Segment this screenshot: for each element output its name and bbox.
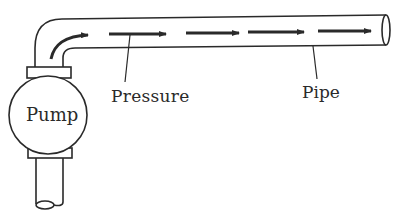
- intake-pipe: [36, 158, 63, 206]
- pump: [9, 67, 87, 209]
- pipe-bottom-wall: [63, 45, 386, 67]
- pipe: [35, 15, 390, 67]
- pipe-end: [382, 15, 390, 45]
- pipe-top-wall: [35, 15, 386, 67]
- pipe-leader-line: [313, 46, 317, 79]
- pump-label: Pump: [26, 106, 78, 124]
- pipe-label: Pipe: [302, 84, 340, 101]
- pressure-leader-line: [125, 35, 130, 82]
- intake-pipe-end: [36, 201, 54, 209]
- leader-lines: [125, 35, 317, 82]
- pressure-label: Pressure: [111, 88, 190, 105]
- curved-flow-arrow: [51, 35, 88, 59]
